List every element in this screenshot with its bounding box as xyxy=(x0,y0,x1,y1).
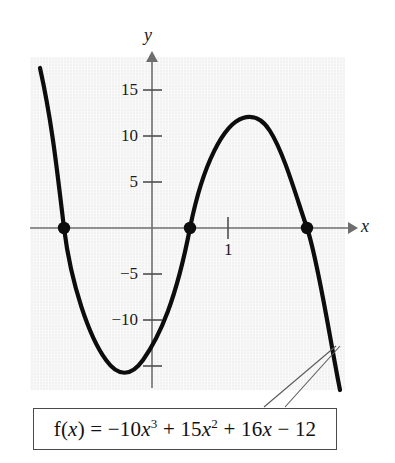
formula-term1-var: x xyxy=(141,417,151,441)
y-tick-label-neg10: −10 xyxy=(88,310,138,330)
y-tick-label-15: 15 xyxy=(98,80,138,100)
formula-text: f(x) = −10x3 + 15x2 + 16x − 12 xyxy=(54,417,317,442)
y-tick-label-5: 5 xyxy=(98,172,138,192)
formula-fx-open: f( xyxy=(54,417,68,441)
y-tick-label-10: 10 xyxy=(98,126,138,146)
y-tick-label-neg5: −5 xyxy=(94,264,138,284)
x-axis-label: x xyxy=(361,216,369,237)
root-dot-middle xyxy=(184,222,196,234)
graph-layer xyxy=(0,0,395,463)
root-dot-right xyxy=(301,222,313,234)
formula-op3: − 12 xyxy=(272,417,316,441)
y-axis-label: y xyxy=(144,25,152,46)
x-axis-arrowhead xyxy=(348,222,358,234)
formula-callout-box: f(x) = −10x3 + 15x2 + 16x − 12 xyxy=(33,408,337,450)
formula-term3-var: x xyxy=(262,417,272,441)
formula-term2-var: x xyxy=(202,417,212,441)
callout-leader-line-1 xyxy=(264,346,336,407)
figure-root: 15 10 5 −5 −10 1 y x f(x) = −10x3 + 15x2… xyxy=(0,0,395,463)
formula-op2: + 16 xyxy=(218,417,262,441)
y-axis-arrowhead xyxy=(146,51,158,62)
formula-eq: ) = −10 xyxy=(78,417,142,441)
callout-leader-line-2 xyxy=(285,346,340,407)
root-dot-left xyxy=(58,222,70,234)
formula-var-lhs: x xyxy=(68,417,78,441)
formula-op1: + 15 xyxy=(157,417,201,441)
x-tick-label-1: 1 xyxy=(224,240,233,260)
